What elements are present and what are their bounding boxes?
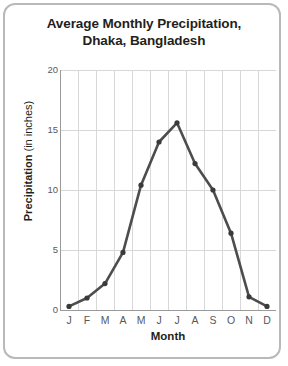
data-point-april [120,250,125,255]
y-tick-label-20: 20 [36,65,58,75]
chart-title-line-2: Dhaka, Bangladesh [5,32,283,49]
data-point-august [192,161,197,166]
data-point-january [66,304,71,309]
y-axis-label: Precipitation (in inches) [22,61,34,261]
x-tick-label-september: S [205,314,221,326]
data-point-november [246,294,251,299]
data-point-september [210,187,215,192]
y-axis-label-unit: (in inches) [22,101,34,155]
chart-title: Average Monthly Precipitation, Dhaka, Ba… [5,15,283,49]
y-tick-label-15: 15 [36,125,58,135]
x-tick-label-december: D [259,314,275,326]
x-tick-label-march: M [97,314,113,326]
x-tick-label-april: A [115,314,131,326]
x-tick-label-november: N [241,314,257,326]
x-tick-label-february: F [79,314,95,326]
x-axis-label: Month [60,330,276,342]
x-axis-tick-labels: JFMAMJJASOND [60,314,276,328]
data-point-june [156,139,161,144]
y-axis-tick-labels: 05101520 [32,70,58,310]
chart-title-line-1: Average Monthly Precipitation, [5,15,283,32]
data-point-july [174,120,179,125]
x-tick-label-october: O [223,314,239,326]
x-tick-label-january: J [61,314,77,326]
data-point-february [84,295,89,300]
plot-area [60,70,276,310]
data-point-march [102,281,107,286]
data-point-december [264,304,269,309]
y-axis-label-main: Precipitation [22,155,34,222]
x-tick-label-august: A [187,314,203,326]
y-tick-label-0: 0 [36,305,58,315]
data-point-may [138,183,143,188]
data-point-october [228,231,233,236]
chart-card: Average Monthly Precipitation, Dhaka, Ba… [3,3,281,359]
x-tick-label-july: J [169,314,185,326]
x-tick-label-may: M [133,314,149,326]
x-tick-label-june: J [151,314,167,326]
y-tick-label-5: 5 [36,245,58,255]
series-line [69,123,267,307]
y-tick-label-10: 10 [36,185,58,195]
precipitation-series [60,70,276,311]
